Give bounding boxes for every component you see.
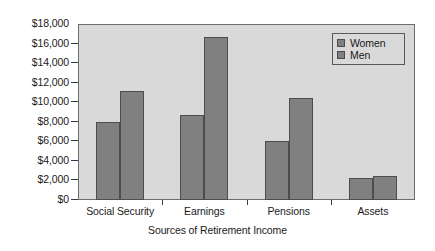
bar [289, 98, 313, 200]
x-axis-label: Pensions [247, 205, 331, 217]
y-axis-tick-label: $18,000 [32, 17, 69, 29]
y-axis-tick-mark [71, 62, 78, 63]
y-axis-tick-mark [71, 43, 78, 44]
y-axis-tick-label: $2,000 [37, 173, 69, 185]
y-axis-tick-mark [71, 140, 78, 141]
y-axis-tick-mark [71, 199, 78, 200]
y-axis-tick-mark [71, 82, 78, 83]
bar [180, 115, 204, 200]
bar [373, 176, 397, 200]
bar-chart: $0$2,000$4,000$6,000$8,000$10,000$12,000… [0, 0, 435, 251]
legend-item-label: Men [350, 49, 370, 61]
y-axis-tick-mark [71, 121, 78, 122]
legend-item: Men [337, 49, 399, 61]
chart-legend: WomenMen [332, 33, 405, 65]
y-axis-tick-label: $0 [58, 193, 69, 205]
x-axis-labels: Social SecurityEarningsPensionsAssets [78, 205, 415, 223]
x-axis-title: Sources of Retirement Income [0, 224, 435, 236]
bar [120, 91, 144, 201]
bar [204, 37, 228, 200]
y-axis-tick-label: $10,000 [32, 95, 69, 107]
legend-item: Women [337, 37, 399, 49]
y-axis-tick-label: $14,000 [32, 56, 69, 68]
bar [349, 178, 373, 200]
y-axis-tick-label: $4,000 [37, 154, 69, 166]
x-axis-label: Assets [331, 205, 415, 217]
y-axis-tick-mark [71, 101, 78, 102]
bar [96, 122, 120, 200]
legend-swatch-icon [337, 39, 345, 47]
y-axis-tick-mark [71, 179, 78, 180]
y-axis-tick-label: $12,000 [32, 76, 69, 88]
y-axis-tick-label: $8,000 [37, 115, 69, 127]
y-axis-tick-label: $16,000 [32, 37, 69, 49]
x-axis-label: Earnings [162, 205, 246, 217]
bar [265, 141, 289, 200]
y-axis-tick-label: $6,000 [37, 134, 69, 146]
legend-swatch-icon [337, 51, 345, 59]
y-axis-tick-mark [71, 160, 78, 161]
legend-item-label: Women [350, 37, 386, 49]
x-axis-label: Social Security [78, 205, 162, 217]
y-axis: $0$2,000$4,000$6,000$8,000$10,000$12,000… [0, 0, 78, 201]
